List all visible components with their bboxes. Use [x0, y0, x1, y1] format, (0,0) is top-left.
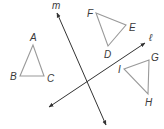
label-l: ℓ: [148, 32, 153, 43]
label-i: I: [118, 64, 121, 75]
label-e: E: [129, 22, 136, 33]
label-a: A: [29, 32, 37, 43]
line-l: [49, 43, 145, 107]
label-m: m: [52, 0, 60, 11]
label-d: D: [104, 49, 111, 60]
triangle-abc: [20, 45, 44, 76]
label-h: H: [145, 97, 153, 108]
geometry-diagram: A B C F E D G I H m ℓ: [0, 0, 164, 129]
triangle-ghi: [124, 60, 149, 94]
label-b: B: [10, 71, 17, 82]
label-c: C: [47, 73, 55, 84]
line-m: [57, 13, 106, 125]
label-f: F: [87, 8, 94, 19]
label-g: G: [151, 52, 159, 63]
triangle-def: [96, 13, 126, 46]
